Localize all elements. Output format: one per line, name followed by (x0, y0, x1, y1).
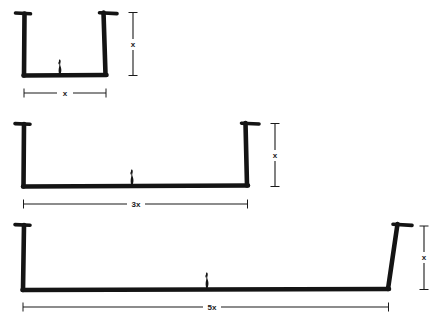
height-label-narrow: x (131, 40, 136, 49)
width-label-medium: 3x (132, 200, 141, 209)
height-label-medium: x (273, 151, 278, 160)
diagram-canvas: x x (0, 0, 439, 325)
width-label-narrow: x (63, 89, 68, 98)
engineering-sketch-diagram: x x (0, 0, 439, 325)
width-label-wide: 5x (208, 303, 217, 312)
height-label-wide: x (422, 253, 427, 262)
canvas-background (0, 0, 439, 325)
